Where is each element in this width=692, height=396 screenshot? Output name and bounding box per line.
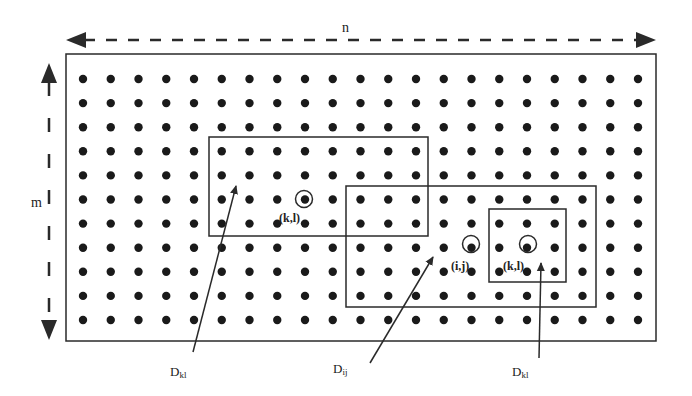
- grid-point: [273, 292, 281, 300]
- grid-point: [79, 171, 87, 179]
- grid-point: [356, 292, 364, 300]
- grid-point: [134, 171, 142, 179]
- grid-point: [523, 195, 531, 203]
- grid-point: [440, 219, 448, 227]
- grid-point: [190, 171, 198, 179]
- grid-point: [551, 219, 559, 227]
- arrowhead-left-icon: [66, 32, 86, 48]
- grid-point: [523, 171, 531, 179]
- grid-point: [190, 123, 198, 131]
- grid-point: [134, 195, 142, 203]
- grid-point: [107, 244, 115, 252]
- grid-point: [79, 123, 87, 131]
- grid-point: [634, 75, 642, 83]
- grid-point: [578, 171, 586, 179]
- point-label: (i,j): [451, 259, 469, 273]
- grid-point: [329, 75, 337, 83]
- grid-point: [190, 75, 198, 83]
- grid-point: [162, 99, 170, 107]
- pointer-arrow: [370, 257, 433, 363]
- grid-point: [79, 268, 87, 276]
- grid-point: [606, 219, 614, 227]
- window-label: Dkl: [512, 364, 529, 380]
- grid-point: [523, 268, 531, 276]
- grid-point: [218, 99, 226, 107]
- grid-point: [245, 244, 253, 252]
- grid-point: [440, 244, 448, 252]
- grid-point: [218, 268, 226, 276]
- grid-point: [301, 147, 309, 155]
- grid-point: [245, 99, 253, 107]
- window-label: Dkl: [170, 364, 187, 380]
- grid-point: [301, 268, 309, 276]
- grid-point: [273, 316, 281, 324]
- grid-point: [301, 292, 309, 300]
- grid-point: [384, 219, 392, 227]
- grid-point: [273, 268, 281, 276]
- point-label: (k,l): [279, 211, 300, 225]
- grid-point: [107, 171, 115, 179]
- pointer-arrow: [193, 186, 236, 352]
- grid-point: [384, 244, 392, 252]
- grid-point: [329, 292, 337, 300]
- grid-point: [273, 123, 281, 131]
- grid-point: [606, 147, 614, 155]
- grid-point: [467, 99, 475, 107]
- grid-point: [245, 171, 253, 179]
- grid-point: [634, 316, 642, 324]
- grid-point: [107, 268, 115, 276]
- grid-point: [329, 244, 337, 252]
- grid-point: [134, 244, 142, 252]
- grid-point: [606, 292, 614, 300]
- grid-point: [356, 123, 364, 131]
- grid-point: [495, 316, 503, 324]
- grid-point: [79, 75, 87, 83]
- grid-point: [412, 99, 420, 107]
- grid-point: [245, 147, 253, 155]
- grid-point: [245, 75, 253, 83]
- grid-point: [523, 147, 531, 155]
- grid-point: [384, 195, 392, 203]
- grid-point: [634, 147, 642, 155]
- grid-point: [273, 244, 281, 252]
- grid-point: [107, 99, 115, 107]
- grid-point: [606, 171, 614, 179]
- grid-point: [634, 219, 642, 227]
- grid-point: [412, 244, 420, 252]
- grid-point: [551, 195, 559, 203]
- grid-point: [440, 171, 448, 179]
- grid-point: [578, 219, 586, 227]
- grid-point: [190, 292, 198, 300]
- grid-point: [412, 123, 420, 131]
- grid-point: [190, 219, 198, 227]
- grid-point: [356, 99, 364, 107]
- grid-point: [578, 99, 586, 107]
- grid-point: [412, 219, 420, 227]
- point-grid: [79, 75, 642, 324]
- arrowhead-up-icon: [41, 63, 57, 83]
- grid-point: [578, 123, 586, 131]
- grid-point: [134, 219, 142, 227]
- grid-point: [606, 268, 614, 276]
- point-label: (k,l): [503, 259, 524, 273]
- grid-point: [523, 244, 531, 252]
- grid-point: [134, 99, 142, 107]
- grid-point: [467, 316, 475, 324]
- grid-point: [551, 99, 559, 107]
- grid-point: [356, 195, 364, 203]
- grid-point: [162, 268, 170, 276]
- grid-point: [301, 99, 309, 107]
- grid-point: [634, 268, 642, 276]
- grid-point: [606, 75, 614, 83]
- grid-point: [301, 219, 309, 227]
- grid-point: [551, 244, 559, 252]
- grid-point: [467, 75, 475, 83]
- grid-point: [107, 75, 115, 83]
- grid-point: [329, 147, 337, 155]
- grid-point: [412, 195, 420, 203]
- grid-point: [634, 195, 642, 203]
- grid-point: [79, 316, 87, 324]
- pointer-arrow: [539, 263, 541, 358]
- grid-point: [384, 75, 392, 83]
- height-label: m: [31, 195, 42, 210]
